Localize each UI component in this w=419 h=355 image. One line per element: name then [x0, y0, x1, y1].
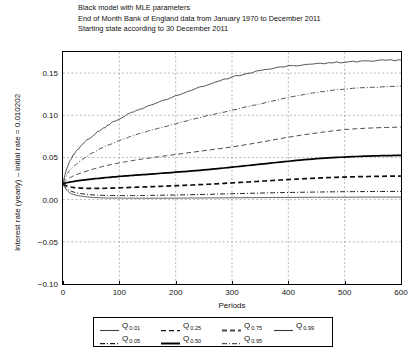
legend-label: Q0.75: [244, 321, 262, 331]
x-axis-label: Periods: [62, 301, 402, 310]
legend-line-swatch: [100, 321, 119, 330]
legend-q005[interactable]: Q0.05: [100, 332, 140, 345]
x-tick-label: 600: [394, 288, 407, 297]
title-line-1: Black model with MLE parameters: [78, 3, 414, 14]
chart-legend: Q0.01Q0.05Q0.25Q0.50Q0.75Q0.95Q0.99: [93, 317, 333, 347]
legend-q095[interactable]: Q0.95: [222, 332, 262, 345]
chart-canvas: [63, 52, 401, 284]
legend-q025[interactable]: Q0.25: [161, 319, 201, 332]
y-tick-label: 0.15: [24, 69, 58, 78]
x-tick-mark: [63, 281, 64, 285]
legend-q099[interactable]: Q0.99: [274, 319, 314, 332]
legend-label: Q0.99: [296, 321, 314, 331]
y-tick-label: −0.05: [24, 237, 58, 246]
x-tick-label: 300: [225, 288, 238, 297]
plot-area: [62, 51, 402, 285]
legend-line-swatch: [222, 334, 241, 343]
x-tick-mark: [288, 281, 289, 285]
legend-label: Q0.05: [122, 334, 140, 344]
series-q-0-05: [63, 184, 401, 195]
x-tick-mark: [176, 281, 177, 285]
y-tick-label: 0.10: [24, 111, 58, 120]
x-tick-mark: [232, 281, 233, 285]
legend-line-swatch: [222, 321, 241, 330]
legend-line-swatch: [161, 334, 180, 343]
y-tick-label: 0.00: [24, 195, 58, 204]
x-tick-mark: [345, 281, 346, 285]
y-axis-ticks: −0.10−0.050.000.050.100.15: [20, 51, 58, 285]
title-line-2: End of Month Bank of England data from J…: [78, 14, 414, 25]
legend-label: Q0.50: [183, 334, 201, 344]
legend-q075[interactable]: Q0.75: [222, 319, 262, 332]
x-tick-mark: [119, 281, 120, 285]
title-line-3: Starting state according to 30 December …: [78, 24, 414, 35]
legend-label: Q0.95: [244, 334, 262, 344]
y-tick-label: 0.05: [24, 153, 58, 162]
x-axis-ticks: 0100200300400500600: [62, 286, 402, 302]
x-tick-label: 400: [282, 288, 295, 297]
x-tick-mark: [401, 281, 402, 285]
x-tick-label: 200: [169, 288, 182, 297]
x-tick-label: 0: [61, 288, 65, 297]
legend-q001[interactable]: Q0.01: [100, 319, 140, 332]
x-tick-label: 100: [113, 288, 126, 297]
legend-label: Q0.25: [183, 321, 201, 331]
chart-title-block: Black model with MLE parameters End of M…: [78, 3, 414, 35]
legend-line-swatch: [100, 334, 119, 343]
x-tick-label: 500: [338, 288, 351, 297]
legend-line-swatch: [161, 321, 180, 330]
legend-q050[interactable]: Q0.50: [161, 332, 201, 345]
series-q-0-95: [63, 86, 401, 183]
legend-label: Q0.01: [122, 321, 140, 331]
legend-line-swatch: [274, 321, 293, 330]
y-axis-label: Interest rate (yearly) – initial rate = …: [13, 53, 22, 293]
y-tick-label: −0.10: [24, 280, 58, 289]
